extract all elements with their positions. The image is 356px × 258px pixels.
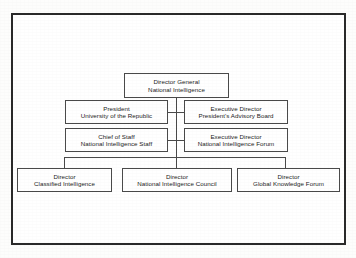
node-line1: Executive Director [210,133,261,140]
node-line1: Executive Director [210,105,261,112]
node-director-global-knowledge-forum[interactable]: Director Global Knowledge Forum [237,168,340,192]
node-director-general[interactable]: Director General National Intelligence [124,73,229,98]
connector-bottom-bracket [64,157,286,158]
connector-drop-center [176,157,177,168]
node-line2: National Intelligence Staff [81,140,152,147]
node-line1: Director [277,173,299,180]
node-line2: National Intelligence [148,86,205,93]
node-line2: National Intelligence Council [137,180,217,187]
node-line1: Director [166,173,188,180]
node-chief-of-staff[interactable]: Chief of Staff National Intelligence Sta… [65,128,168,152]
node-line1: President [103,105,130,112]
connector-drop-left [64,157,65,168]
node-line2: National Intelligence Forum [198,140,275,147]
node-line2: President's Advisory Board [198,112,273,119]
node-director-classified-intelligence[interactable]: Director Classified Intelligence [17,168,112,192]
org-chart-page: Director General National Intelligence P… [0,0,356,258]
node-line2: Classified Intelligence [34,180,95,187]
node-line2: Global Knowledge Forum [253,180,324,187]
node-president-university[interactable]: President University of the Republic [65,100,168,124]
node-line1: Director [53,173,75,180]
node-executive-director-advisory-board[interactable]: Executive Director President's Advisory … [184,100,288,124]
node-line1: Chief of Staff [98,133,134,140]
org-chart: Director General National Intelligence P… [0,0,356,258]
connector-trunk-vertical [176,97,177,157]
node-executive-director-intelligence-forum[interactable]: Executive Director National Intelligence… [184,128,288,152]
connector-drop-right [285,157,286,168]
node-line2: University of the Republic [81,112,152,119]
node-director-national-intelligence-council[interactable]: Director National Intelligence Council [122,168,232,192]
node-line1: Director General [153,78,199,85]
